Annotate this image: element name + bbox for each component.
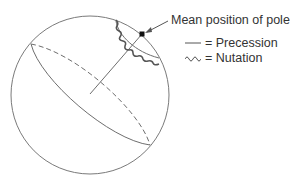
arrow-head-icon [145,27,152,33]
nutation-path [116,20,159,65]
wavy-line-icon [185,54,201,62]
mean-pole-label: Mean position of pole [171,13,290,27]
straight-line-icon [185,39,201,47]
legend-precession: = Precession [185,36,278,50]
sphere-diagram [0,0,297,182]
equator-back [31,44,150,145]
sphere-outline [11,16,169,174]
legend-nutation: = Nutation [185,51,262,65]
legend-nutation-label: = Nutation [205,51,262,65]
rotation-axis [90,34,142,94]
mean-pole-marker [140,32,145,37]
equator-front [31,44,150,145]
legend-precession-label: = Precession [205,36,278,50]
